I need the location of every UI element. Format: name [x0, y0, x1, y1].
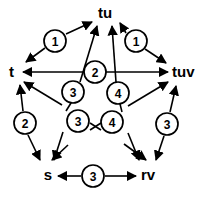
badge-label: 3 [75, 115, 82, 129]
diagram-canvas: tu t tuv s rv 1 1 2 3 4 2 [0, 0, 210, 198]
edge-badge-1-left: 1 [44, 30, 66, 52]
edge-badge-3-bottom: 3 [82, 165, 104, 187]
badge-label: 3 [70, 86, 77, 100]
graph-svg: tu t tuv s rv 1 1 2 3 4 2 [0, 0, 210, 198]
node-label-t: t [9, 63, 14, 80]
edge-badge-2-left: 2 [14, 112, 36, 134]
edge-badge-2-center: 2 [84, 61, 106, 83]
node-label-tuv: tuv [172, 63, 195, 80]
badge-label: 3 [164, 118, 171, 132]
edge-badge-1-right: 1 [125, 30, 147, 52]
node-label-rv: rv [141, 166, 156, 183]
badge-label: 2 [22, 117, 29, 131]
edge-badge-3-right: 3 [156, 113, 178, 135]
edge-badge-4-upper: 4 [107, 82, 129, 104]
node-label-tu: tu [98, 4, 112, 21]
edge-badge-3-upper: 3 [62, 81, 84, 103]
badge-label: 1 [133, 35, 140, 49]
badge-label: 1 [52, 35, 59, 49]
badge-label: 2 [92, 66, 99, 80]
node-label-s: s [44, 166, 52, 183]
edge-badge-4-lower: 4 [101, 111, 123, 133]
badge-label: 4 [109, 116, 116, 130]
badge-label: 4 [115, 87, 122, 101]
edge-badge-3-lower: 3 [67, 110, 89, 132]
badge-label: 3 [90, 170, 97, 184]
